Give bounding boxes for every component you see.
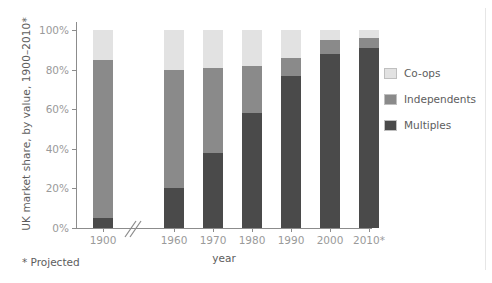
bar-segment-co-ops bbox=[359, 30, 379, 38]
y-axis-tick-mark bbox=[72, 228, 76, 229]
bar-1990 bbox=[281, 30, 301, 228]
bar-segment-co-ops bbox=[164, 30, 184, 70]
bar-segment-independents bbox=[359, 38, 379, 48]
bar-2000 bbox=[320, 30, 340, 228]
bar-segment-multiples bbox=[320, 54, 340, 228]
bar-1980 bbox=[242, 30, 262, 228]
x-axis-tick-label: 2010* bbox=[353, 234, 385, 246]
bar-segment-independents bbox=[281, 58, 301, 76]
bar-segment-independents bbox=[320, 40, 340, 54]
y-axis-tick-mark bbox=[72, 149, 76, 150]
legend-swatch-icon bbox=[384, 120, 397, 131]
bar-segment-multiples bbox=[359, 48, 379, 228]
bar-segment-co-ops bbox=[203, 30, 223, 68]
x-axis-tick-label: 1990 bbox=[278, 234, 305, 246]
bar-segment-multiples bbox=[281, 76, 301, 228]
bar-segment-multiples bbox=[242, 113, 262, 228]
legend-item-label: Multiples bbox=[404, 119, 451, 131]
x-axis-tick-label: 1970 bbox=[200, 234, 227, 246]
y-axis-tick-mark bbox=[72, 188, 76, 189]
x-axis-tick-label: 1900 bbox=[90, 234, 117, 246]
bar-2010 bbox=[359, 30, 379, 228]
legend-item-label: Independents bbox=[404, 93, 476, 105]
x-axis-tick-mark bbox=[213, 228, 214, 232]
bar-segment-co-ops bbox=[242, 30, 262, 66]
chart-legend: Co-opsIndependentsMultiples bbox=[384, 66, 476, 144]
bar-segment-co-ops bbox=[281, 30, 301, 58]
axis-break-icon bbox=[119, 218, 145, 240]
legend-item[interactable]: Multiples bbox=[384, 118, 476, 132]
bar-segment-co-ops bbox=[320, 30, 340, 40]
bar-segment-independents bbox=[203, 68, 223, 153]
legend-swatch-icon bbox=[384, 68, 397, 79]
plot-area: 0%20%40%60%80%100% 190019601970198019902… bbox=[76, 30, 372, 228]
x-axis-tick-label: 1980 bbox=[239, 234, 266, 246]
x-axis-tick-label: 1960 bbox=[161, 234, 188, 246]
y-axis-tick-mark bbox=[72, 109, 76, 110]
x-axis-tick-mark bbox=[291, 228, 292, 232]
footnote-text: * Projected bbox=[22, 256, 80, 268]
y-axis-line bbox=[76, 22, 77, 228]
bar-segment-independents bbox=[93, 60, 113, 218]
y-axis-tick-mark bbox=[72, 30, 76, 31]
x-axis-tick-mark bbox=[330, 228, 331, 232]
x-axis-tick-label: 2000 bbox=[317, 234, 344, 246]
legend-item[interactable]: Co-ops bbox=[384, 66, 476, 80]
y-axis-tick-label: 100% bbox=[39, 24, 76, 36]
bar-1970 bbox=[203, 30, 223, 228]
x-axis-tick-mark bbox=[252, 228, 253, 232]
x-axis-title: year bbox=[76, 252, 372, 264]
bar-1960 bbox=[164, 30, 184, 228]
bar-segment-independents bbox=[164, 70, 184, 189]
legend-swatch-icon bbox=[384, 94, 397, 105]
y-axis-tick-mark bbox=[72, 70, 76, 71]
bar-segment-co-ops bbox=[93, 30, 113, 60]
x-axis-tick-mark bbox=[174, 228, 175, 232]
bar-1900 bbox=[93, 30, 113, 228]
legend-item[interactable]: Independents bbox=[384, 92, 476, 106]
bar-segment-multiples bbox=[164, 188, 184, 228]
bar-segment-multiples bbox=[93, 218, 113, 228]
divider-rule bbox=[485, 8, 486, 270]
chart-figure: UK market share, by value, 1900–2010* 0%… bbox=[0, 0, 492, 283]
x-axis-tick-mark bbox=[369, 228, 370, 232]
legend-item-label: Co-ops bbox=[404, 67, 441, 79]
x-axis-tick-mark bbox=[103, 228, 104, 232]
bar-segment-multiples bbox=[203, 153, 223, 228]
y-axis-title: UK market share, by value, 1900–2010* bbox=[20, 14, 32, 234]
bar-segment-independents bbox=[242, 66, 262, 114]
